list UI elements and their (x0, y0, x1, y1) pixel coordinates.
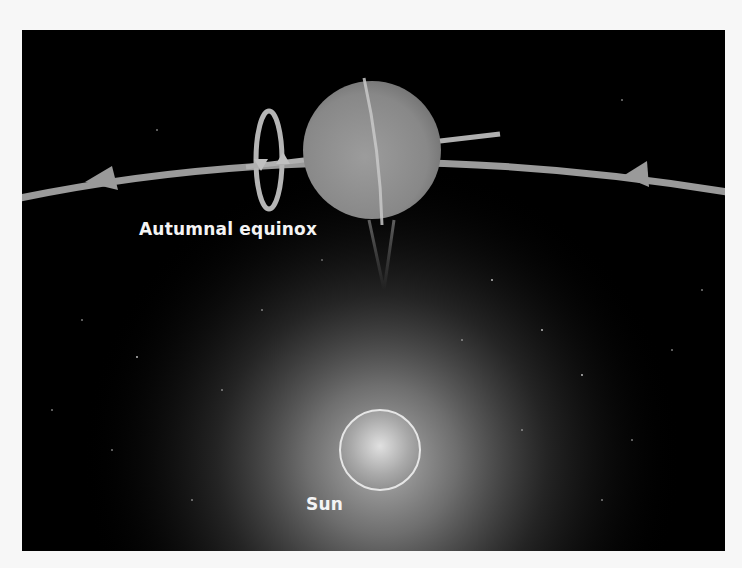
diagram-stage: Autumnal equinox Sun (0, 0, 742, 568)
space-scene: Autumnal equinox Sun (22, 30, 725, 551)
scene-graphics (22, 30, 725, 551)
planet (303, 81, 441, 219)
sun (340, 410, 420, 490)
autumnal-equinox-label: Autumnal equinox (139, 219, 317, 239)
sun-label: Sun (306, 494, 343, 514)
